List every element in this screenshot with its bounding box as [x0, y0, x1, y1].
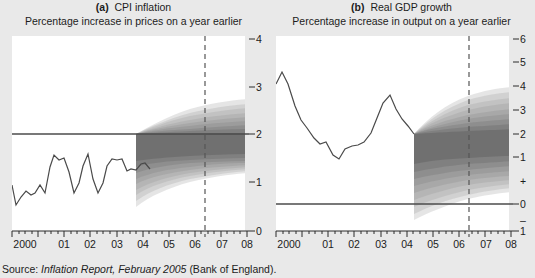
panel-a-ytick-4: 4	[256, 34, 262, 45]
panel-a-title: (a) CPI inflation	[0, 0, 267, 14]
panel-b-ytick-2: 2	[520, 129, 526, 140]
panel-b-plot: 6 5 4 3 2 1 + 0 – 1 2000 01 02 03 04 05 …	[268, 30, 535, 258]
panel-a-title-text: CPI inflation	[115, 1, 172, 13]
panel-b-ytick-0: 0	[520, 199, 526, 210]
panel-a-ytick-3: 3	[256, 82, 262, 93]
panel-b-ytick-6: 6	[520, 34, 526, 45]
panel-b-x-ticks	[276, 231, 511, 237]
panel-a-x-ticks	[12, 231, 247, 237]
panel-real-gdp-growth: (b) Real GDP growth Percentage increase …	[268, 0, 535, 258]
panel-b-ytick-neg1: 1	[520, 226, 526, 237]
panel-b-titles: (b) Real GDP growth Percentage increase …	[268, 0, 535, 28]
panel-a-label: (a)	[96, 1, 109, 13]
source-title: Inflation Report, February 2005	[41, 263, 186, 275]
panel-b-y-ticks	[513, 39, 519, 231]
panel-a-y-ticks	[249, 39, 255, 231]
panel-a-ytick-1: 1	[256, 177, 262, 188]
panel-b-ytick-4: 4	[520, 81, 526, 92]
panel-b-subtitle: Percentage increase in output on a year …	[268, 14, 535, 28]
panel-b-svg	[268, 30, 535, 258]
panel-b-ytick-1: 1	[520, 152, 526, 163]
source-prefix: Source:	[2, 263, 38, 275]
source-note: Source: Inflation Report, February 2005 …	[2, 263, 276, 275]
panel-b-ytick-minus-sign: –	[520, 215, 526, 226]
panel-cpi-inflation: (a) CPI inflation Percentage increase in…	[0, 0, 267, 258]
panel-a-svg	[0, 30, 267, 258]
panel-a-subtitle: Percentage increase in prices on a year …	[0, 14, 267, 28]
panel-b-ytick-5: 5	[520, 57, 526, 68]
fan-chart-figure: (a) CPI inflation Percentage increase in…	[0, 0, 535, 278]
source-publisher: (Bank of England).	[189, 263, 276, 275]
panel-b-ytick-plus-sign: +	[520, 176, 526, 187]
panel-a-ytick-2: 2	[256, 129, 262, 140]
panel-a-ytick-0: 0	[256, 226, 262, 237]
panel-b-title-text: Real GDP growth	[370, 1, 452, 13]
panel-a-plot: 4 3 2 1 0 2000 01 02 03 04 05 06 07 08	[0, 30, 267, 258]
panel-b-xtick-08: 08	[485, 239, 535, 250]
panel-a-titles: (a) CPI inflation Percentage increase in…	[0, 0, 267, 28]
panel-b-ytick-3: 3	[520, 105, 526, 116]
panel-b-label: (b)	[351, 1, 364, 13]
panel-b-title: (b) Real GDP growth	[268, 0, 535, 14]
